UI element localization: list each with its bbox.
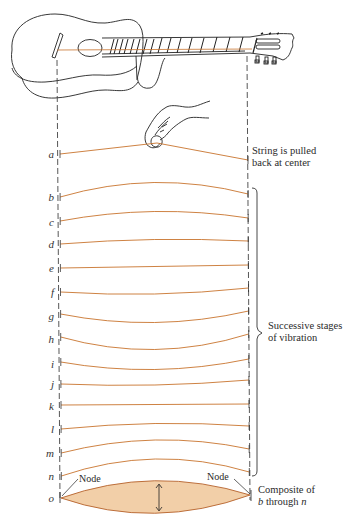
caption-composite-through: through xyxy=(263,496,301,507)
string-stage-e xyxy=(60,265,248,268)
row-label-b: b xyxy=(40,191,54,203)
node-label-left: Node xyxy=(79,473,101,484)
caption-composite-n: n xyxy=(301,496,306,507)
string-stage-i xyxy=(61,359,249,370)
row-label-c: c xyxy=(40,216,54,228)
caption-pulled-line1: String is pulled xyxy=(252,145,316,157)
guitar-illustration xyxy=(11,14,294,98)
string-stage-g xyxy=(61,311,249,323)
caption-pulled: String is pulled back at center xyxy=(252,145,316,169)
guitar-string xyxy=(57,49,252,50)
row-label-m: m xyxy=(40,447,54,459)
string-stage-l xyxy=(61,423,249,429)
caption-composite: Composite of b through n xyxy=(258,484,315,508)
row-label-f: f xyxy=(40,286,54,298)
row-label-j: j xyxy=(40,378,54,390)
caption-stages-line2: of vibration xyxy=(268,332,342,344)
string-stage-m xyxy=(61,440,249,453)
row-label-a: a xyxy=(40,148,54,160)
row-label-k: k xyxy=(40,400,54,412)
node-label-right: Node xyxy=(207,471,229,482)
string-stage-j xyxy=(61,380,249,385)
caption-stages: Successive stages of vibration xyxy=(268,320,342,344)
right-dashed-guide xyxy=(247,56,250,500)
string-stage-b xyxy=(60,182,248,197)
caption-composite-line1: Composite of xyxy=(258,484,315,496)
caption-pulled-line2: back at center xyxy=(252,157,316,169)
string-stage-k xyxy=(61,404,249,405)
row-label-l: l xyxy=(40,423,54,435)
hand-illustration xyxy=(145,101,210,148)
string-stage-c xyxy=(60,211,248,221)
stages-brace xyxy=(252,188,262,476)
row-label-n: n xyxy=(40,470,54,482)
string-stage-d xyxy=(60,239,248,244)
row-label-i: i xyxy=(40,358,54,370)
string-stage-a xyxy=(60,143,248,160)
string-stage-f xyxy=(61,288,249,294)
vibrating-string-diagram: abcdefghijklmno String is pulled back at… xyxy=(0,0,362,522)
row-label-e: e xyxy=(40,262,54,274)
diagram-canvas xyxy=(0,0,362,522)
composite-envelope xyxy=(60,479,251,513)
row-label-d: d xyxy=(40,238,54,250)
row-label-h: h xyxy=(40,333,54,345)
row-label-o: o xyxy=(40,492,54,504)
caption-composite-line2: b through n xyxy=(258,496,315,508)
left-dashed-guide xyxy=(57,60,60,500)
row-label-g: g xyxy=(40,310,54,322)
string-stages xyxy=(60,143,249,480)
caption-stages-line1: Successive stages xyxy=(268,320,342,332)
string-stage-h xyxy=(61,334,249,350)
